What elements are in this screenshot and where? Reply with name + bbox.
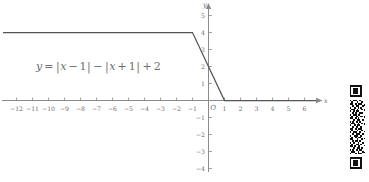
equation-op1: − — [91, 60, 104, 73]
y-tick-label: −2 — [196, 131, 205, 138]
y-tick-label: −4 — [196, 165, 205, 172]
x-tick-label: 1 — [223, 105, 227, 112]
equation-term1-num: 1 — [80, 60, 87, 73]
function-graph-figure: x y −12 −11 −10 −9 −8 −7 −6 −5 — [0, 0, 369, 182]
x-tick-label: 2 — [239, 105, 243, 112]
x-tick-label: −3 — [156, 105, 165, 112]
equation-term1-op: − — [66, 60, 79, 73]
equation-term2-num: 1 — [129, 60, 136, 73]
y-tick-label: 5 — [201, 12, 205, 19]
x-tick-label: −2 — [172, 105, 181, 112]
x-tick-labels: −12 −11 −10 −9 −8 −7 −6 −5 −4 −3 −2 −1 1… — [10, 105, 307, 112]
x-tick-label: −10 — [42, 105, 55, 112]
x-tick-label: 5 — [287, 105, 291, 112]
equation-const: 2 — [154, 60, 161, 73]
y-tick-marks — [209, 16, 213, 169]
y-tick-label: 1 — [201, 80, 205, 87]
x-tick-label: −9 — [60, 105, 69, 112]
x-tick-label: 4 — [271, 105, 275, 112]
equation-op2: + — [140, 60, 153, 73]
y-tick-label: −3 — [196, 148, 205, 155]
y-tick-label: −1 — [196, 114, 205, 121]
x-tick-label: 3 — [255, 105, 259, 112]
x-tick-label: −12 — [10, 105, 23, 112]
equation-equals: = — [42, 60, 55, 73]
x-tick-label: −4 — [140, 105, 149, 112]
x-tick-label: −5 — [124, 105, 133, 112]
x-tick-label: −1 — [188, 105, 197, 112]
x-tick-label: −8 — [76, 105, 85, 112]
equation-annotation: y=|x−1|−|x+1|+2 — [36, 57, 206, 77]
equation-term2-op: + — [115, 60, 128, 73]
qr-code — [347, 82, 369, 172]
x-tick-label: −7 — [92, 105, 101, 112]
x-axis-label: x — [324, 97, 328, 105]
origin-label: O — [210, 104, 216, 112]
y-tick-labels: −4 −3 −2 −1 1 2 3 4 5 — [196, 12, 205, 172]
x-axis-arrow — [316, 98, 323, 103]
y-axis-label: y — [202, 1, 207, 9]
x-tick-label: −11 — [26, 105, 39, 112]
x-tick-label: −6 — [108, 105, 117, 112]
y-tick-label: 4 — [201, 29, 205, 36]
x-tick-label: 6 — [303, 105, 307, 112]
